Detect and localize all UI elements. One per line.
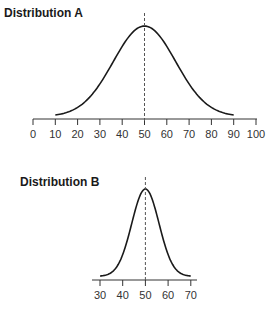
x-tick-label: 60 xyxy=(162,289,174,301)
x-tick-label: 50 xyxy=(138,128,150,140)
x-tick-label: 70 xyxy=(185,289,197,301)
distribution-charts: 01020304050607080901003040506070 xyxy=(0,0,280,317)
x-tick-label: 40 xyxy=(117,289,129,301)
x-tick-label: 30 xyxy=(94,289,106,301)
x-tick-label: 70 xyxy=(183,128,195,140)
x-tick-label: 100 xyxy=(247,128,265,140)
x-tick-label: 20 xyxy=(71,128,83,140)
x-tick-label: 0 xyxy=(30,128,36,140)
x-tick-label: 50 xyxy=(139,289,151,301)
x-tick-label: 80 xyxy=(205,128,217,140)
x-tick-label: 90 xyxy=(228,128,240,140)
x-tick-label: 40 xyxy=(116,128,128,140)
x-tick-label: 10 xyxy=(49,128,61,140)
x-tick-label: 30 xyxy=(94,128,106,140)
x-tick-label: 60 xyxy=(161,128,173,140)
